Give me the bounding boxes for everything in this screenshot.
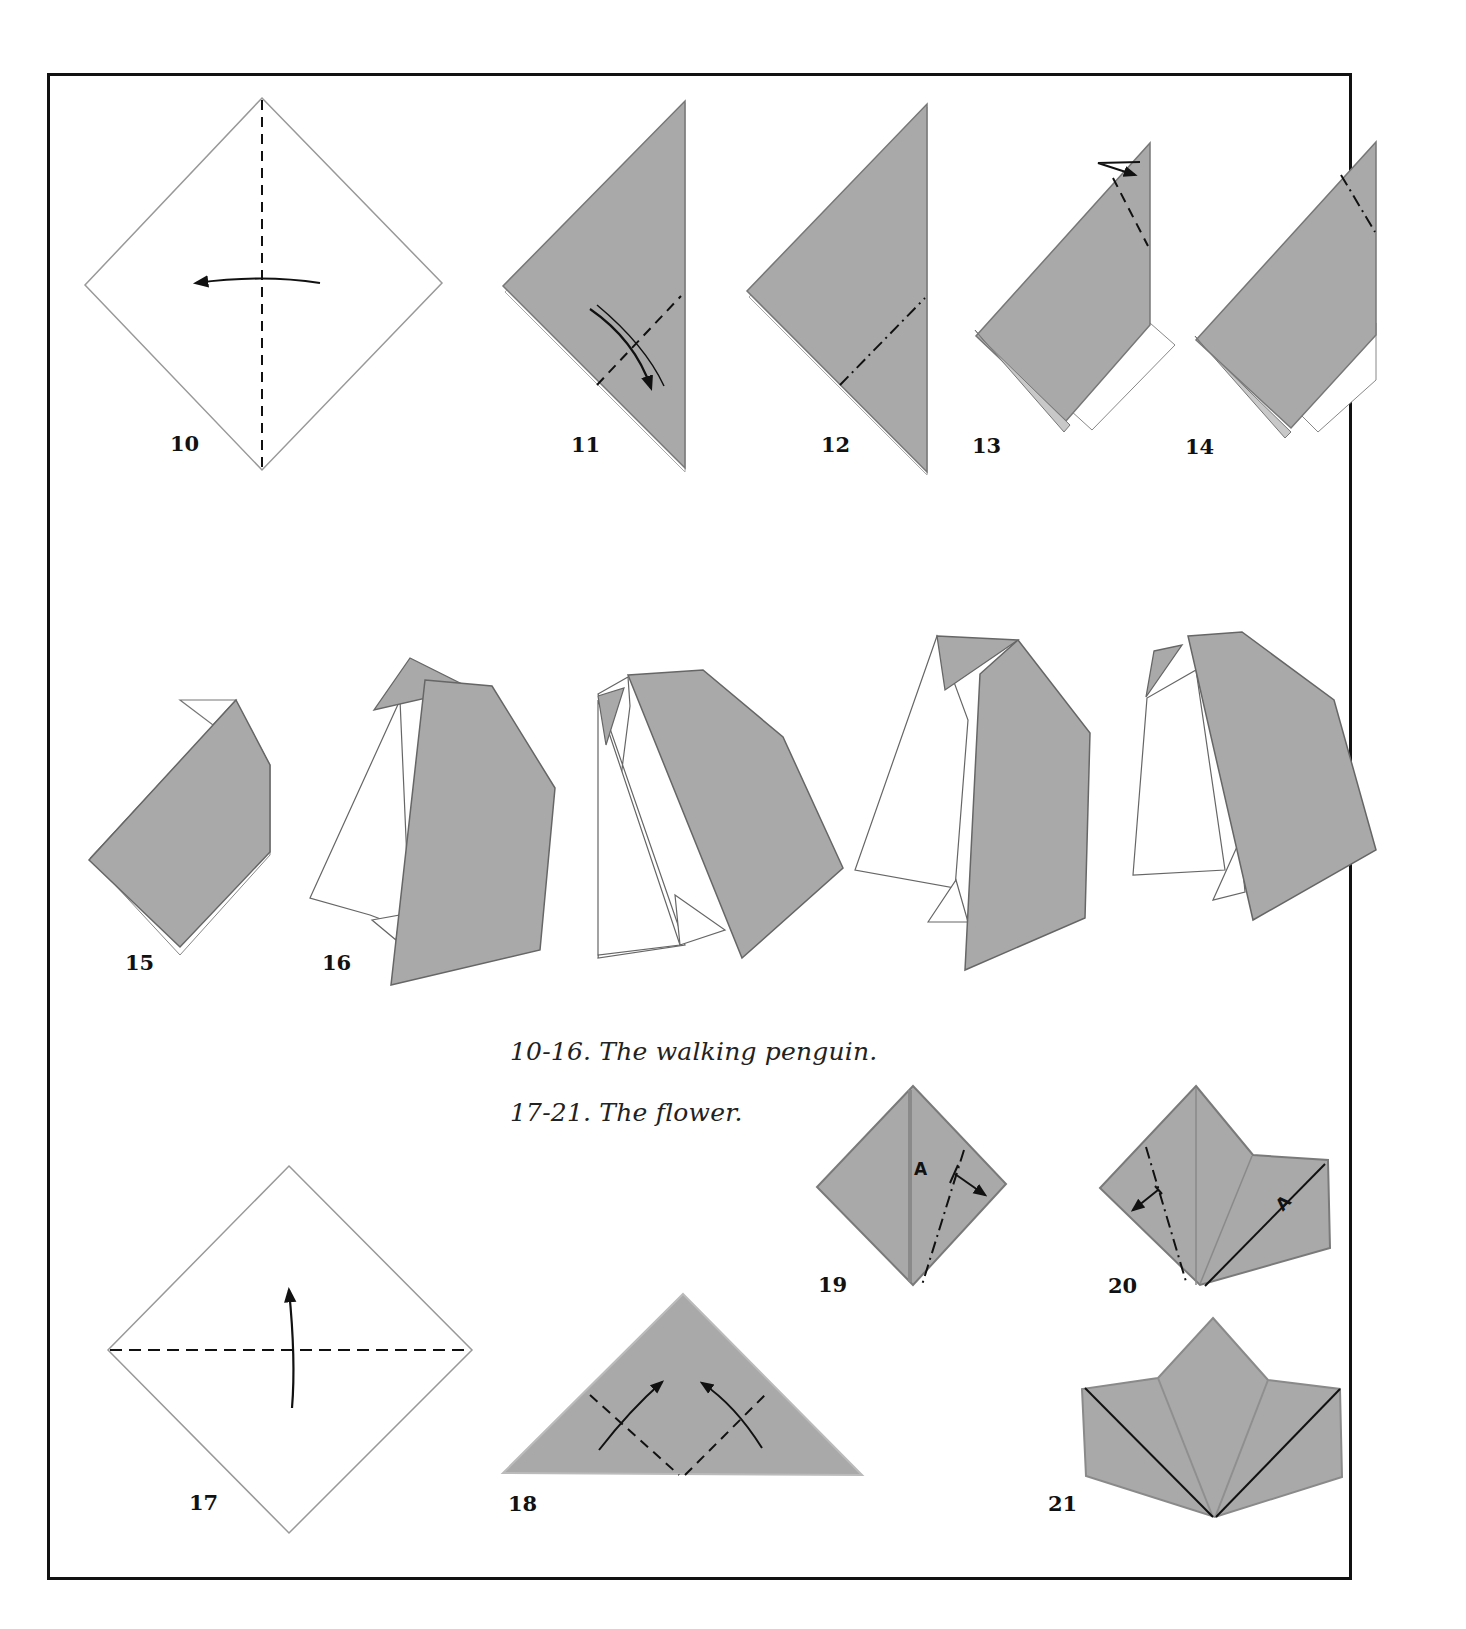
figure-12-diagram [747, 104, 927, 475]
figure-10-diagram [85, 98, 442, 470]
figure-16-penguin-1 [310, 658, 555, 985]
figure-number: 20 [1108, 1273, 1137, 1298]
figure-number: 18 [508, 1491, 537, 1516]
figure-16-penguin-2 [598, 670, 843, 958]
figure-number: 17 [189, 1490, 218, 1515]
caption-flower: 17-21. The flower. [510, 1098, 743, 1127]
figure-number: 14 [1185, 434, 1214, 459]
figure-19-diagram: A [817, 1086, 1006, 1285]
figure-16-penguin-3 [855, 636, 1090, 970]
caption-penguin: 10-16. The walking penguin. [510, 1037, 877, 1066]
figure-20-diagram: A [1100, 1086, 1330, 1286]
figure-15-diagram [89, 700, 270, 955]
diagram-artwork: A A [0, 0, 1466, 1629]
figure-17-diagram [108, 1166, 472, 1533]
figure-11-diagram [503, 101, 685, 472]
figure-14-diagram [1195, 142, 1376, 438]
figure-number: 13 [972, 433, 1001, 458]
figure-number: 12 [821, 432, 850, 457]
figure-18-diagram [503, 1294, 862, 1475]
figure-number: 10 [170, 431, 199, 456]
figure-number: 21 [1048, 1491, 1077, 1516]
figure-13-diagram [975, 143, 1175, 432]
figure-number: 16 [322, 950, 351, 975]
figure-number: 11 [571, 432, 600, 457]
figure-number: 15 [125, 950, 154, 975]
crease-label-a: A [914, 1159, 928, 1179]
figure-16-penguin-4 [1133, 632, 1376, 920]
figure-21-diagram [1082, 1318, 1342, 1517]
figure-number: 19 [818, 1272, 847, 1297]
